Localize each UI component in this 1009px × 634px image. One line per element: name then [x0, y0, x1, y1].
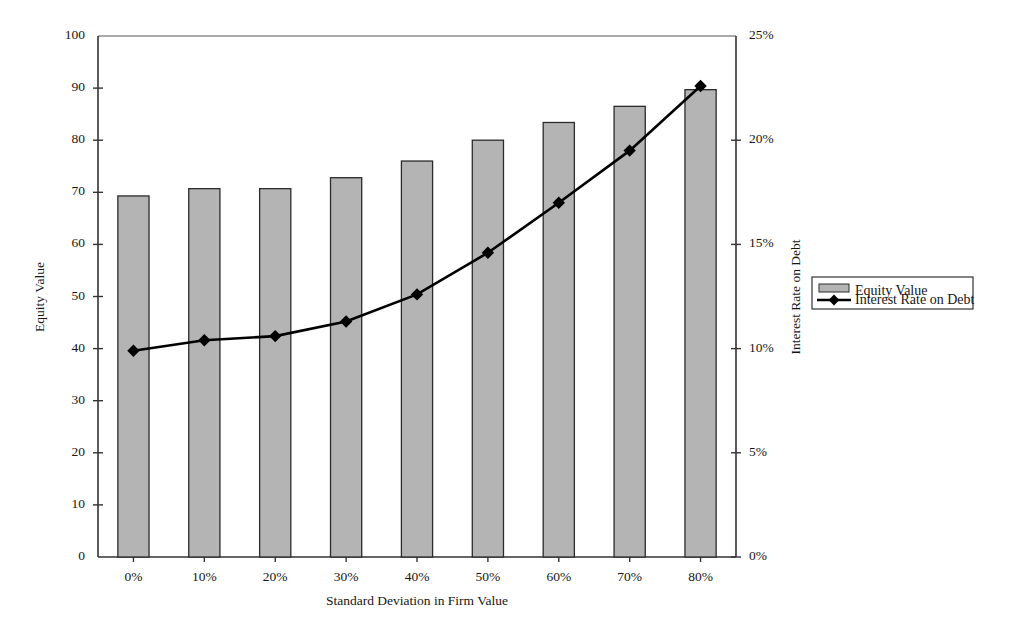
y-axis-left-title: Equity Value — [32, 262, 47, 332]
y-axis-left-tick-label: 30 — [72, 392, 86, 407]
x-axis-tick-label: 0% — [124, 569, 142, 584]
y-axis-left-tick-label: 90 — [72, 79, 86, 94]
bar — [614, 106, 645, 557]
y-axis-left-tick-label: 20 — [72, 444, 86, 459]
y-axis-right-tick-label: 25% — [749, 27, 774, 42]
x-axis-tick-label: 60% — [546, 569, 571, 584]
x-axis-tick-label: 50% — [476, 569, 501, 584]
x-axis-tick-label: 40% — [405, 569, 430, 584]
bar — [189, 189, 220, 557]
chart-figure: 0102030405060708090100 0%5%10%15%20%25% … — [0, 0, 1009, 634]
bar — [401, 161, 432, 557]
x-axis-tick-label: 70% — [617, 569, 642, 584]
y-axis-right-tick-label: 20% — [749, 131, 774, 146]
y-axis-left-tick-label: 60 — [72, 235, 86, 250]
y-axis-left-tick-label: 40 — [72, 340, 86, 355]
bar — [472, 140, 503, 557]
y-axis-right-tick-label: 10% — [749, 340, 774, 355]
x-axis-title: Standard Deviation in Firm Value — [326, 593, 508, 608]
x-axis-tick-label: 30% — [334, 569, 359, 584]
y-axis-right-tick-label: 15% — [749, 235, 774, 250]
y-axis-right-ticks: 0%5%10%15%20%25% — [731, 27, 774, 563]
x-axis-tick-label: 10% — [192, 569, 217, 584]
bar — [260, 189, 291, 557]
bar — [118, 196, 149, 557]
legend-label-interest-rate: Interest Rate on Debt — [855, 292, 974, 307]
bar — [331, 178, 362, 557]
y-axis-left-tick-label: 10 — [72, 496, 86, 511]
x-axis-tick-label: 80% — [688, 569, 713, 584]
y-axis-left-tick-label: 80 — [72, 131, 86, 146]
y-axis-left-tick-label: 0 — [78, 548, 85, 563]
y-axis-right-title: Interest Rate on Debt — [788, 239, 803, 354]
chart-svg: 0102030405060708090100 0%5%10%15%20%25% … — [0, 0, 1009, 634]
bar — [543, 122, 574, 557]
y-axis-right-tick-label: 5% — [749, 444, 767, 459]
y-axis-left-tick-label: 70 — [72, 183, 86, 198]
y-axis-left-tick-label: 100 — [65, 27, 86, 42]
x-axis-tick-label: 20% — [263, 569, 288, 584]
legend-bar-swatch — [819, 284, 849, 292]
bar — [685, 90, 716, 557]
chart-legend: Equity Value Interest Rate on Debt — [812, 277, 974, 309]
y-axis-right-tick-label: 0% — [749, 548, 767, 563]
y-axis-left-tick-label: 50 — [72, 288, 86, 303]
bar-series-equity-value — [118, 90, 716, 557]
